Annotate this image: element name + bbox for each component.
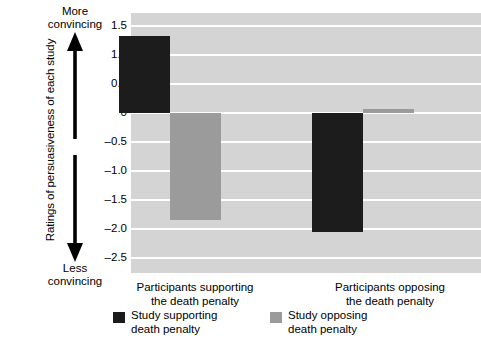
gridline-1 — [131, 54, 481, 56]
x-axis-group-label-1-line1: Participants opposing — [295, 281, 481, 295]
legend-label-0-line2: death penalty — [131, 323, 217, 337]
legend-label-0-line1: Study supporting — [131, 309, 217, 323]
y-tick-label-7: –2.0 — [95, 222, 127, 234]
legend-swatch-dark-icon — [113, 312, 125, 323]
x-axis-group-label-1-line2: the death penalty — [295, 295, 481, 309]
gridline-0 — [131, 25, 481, 27]
bar-series0-group1 — [312, 113, 363, 232]
y-tick-label-0: 1.5 — [95, 19, 127, 31]
x-axis-group-label-1: Participants opposing the death penalty — [295, 281, 481, 308]
x-axis-group-label-0-line2: the death penalty — [100, 295, 290, 309]
bar-series0-group0 — [119, 36, 170, 113]
y-tick-label-5: –1.0 — [95, 164, 127, 176]
y-axis-label: Ratings of persuasiveness of each study — [44, 0, 64, 280]
double-headed-vertical-arrow-icon — [66, 32, 84, 262]
y-tick-label-4: –0.5 — [95, 135, 127, 147]
legend-swatch-light-icon — [270, 312, 282, 323]
chart-legend: Study supporting death penalty Study opp… — [113, 311, 443, 345]
less-convincing-line1: Less — [31, 262, 119, 275]
gridline-2 — [131, 83, 481, 85]
legend-label-1-line1: Study opposing — [288, 309, 367, 323]
y-tick-label-6: –1.5 — [95, 193, 127, 205]
gridline-8 — [131, 257, 481, 259]
y-tick-label-8: –2.5 — [95, 251, 127, 263]
legend-label-1: Study opposing death penalty — [288, 309, 367, 336]
gridline-7 — [131, 228, 481, 230]
x-axis-group-label-0-line1: Participants supporting — [100, 281, 290, 295]
legend-label-0: Study supporting death penalty — [131, 309, 217, 336]
chart-plot-area — [131, 13, 481, 273]
more-convincing-line1: More — [31, 5, 119, 18]
bar-series1-group1 — [363, 109, 414, 113]
legend-label-1-line2: death penalty — [288, 323, 367, 337]
x-axis-group-label-0: Participants supporting the death penalt… — [100, 281, 290, 308]
bar-series1-group0 — [170, 113, 221, 220]
